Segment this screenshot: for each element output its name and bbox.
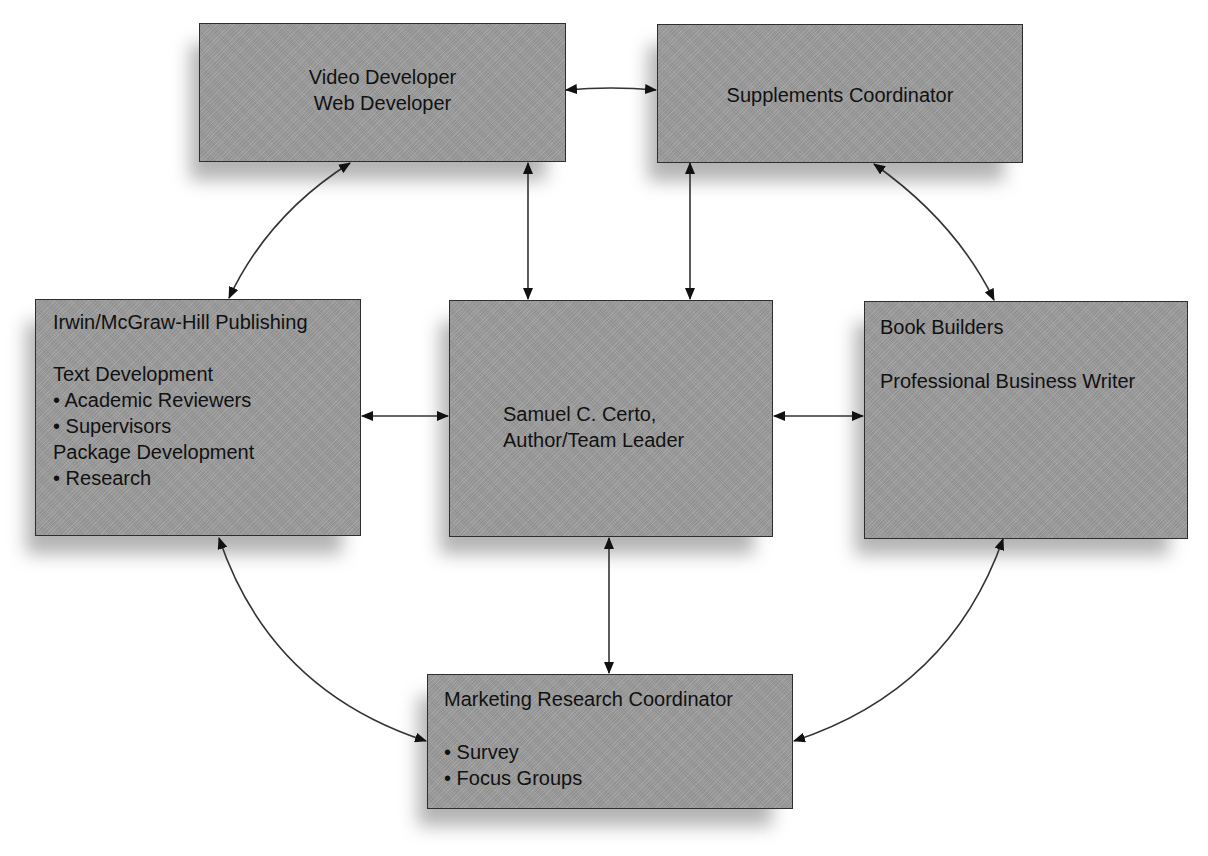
- marketing-research-box[interactable]: Marketing Research Coordinator • Survey …: [427, 674, 793, 809]
- video-web-developer-box[interactable]: Video Developer Web Developer: [199, 23, 566, 162]
- academic-reviewers-item: • Academic Reviewers: [53, 387, 308, 413]
- supervisors-item: • Supervisors: [53, 413, 308, 439]
- publisher-title: Irwin/McGraw-Hill Publishing: [53, 309, 308, 335]
- web-developer-label: Web Developer: [200, 90, 565, 116]
- edge-video-publisher: [229, 163, 350, 298]
- marketing-research-title: Marketing Research Coordinator: [444, 686, 733, 712]
- text-development-label: Text Development: [53, 361, 308, 387]
- author-team-leader-box[interactable]: Samuel C. Certo, Author/Team Leader: [449, 300, 773, 537]
- edge-video-supplements: [566, 88, 656, 90]
- edge-bookbuilders-marketing: [794, 539, 1003, 741]
- focus-groups-item: • Focus Groups: [444, 765, 733, 791]
- supplements-coordinator-label: Supplements Coordinator: [658, 82, 1022, 108]
- author-role-label: Author/Team Leader: [503, 427, 684, 453]
- supplements-coordinator-box[interactable]: Supplements Coordinator: [657, 24, 1023, 163]
- publisher-box[interactable]: Irwin/McGraw-Hill Publishing Text Develo…: [35, 299, 361, 536]
- author-name-label: Samuel C. Certo,: [503, 401, 684, 427]
- package-development-label: Package Development: [53, 439, 308, 465]
- book-builders-box[interactable]: Book Builders Professional Business Writ…: [864, 301, 1188, 539]
- diagram-canvas: Video Developer Web Developer Supplement…: [0, 0, 1208, 856]
- research-item: • Research: [53, 465, 308, 491]
- video-developer-label: Video Developer: [200, 64, 565, 90]
- professional-business-writer-label: Professional Business Writer: [880, 368, 1135, 394]
- edge-supplements-bookbuilders: [874, 164, 994, 300]
- edge-publisher-marketing: [219, 538, 426, 741]
- book-builders-title: Book Builders: [880, 314, 1135, 340]
- survey-item: • Survey: [444, 739, 733, 765]
